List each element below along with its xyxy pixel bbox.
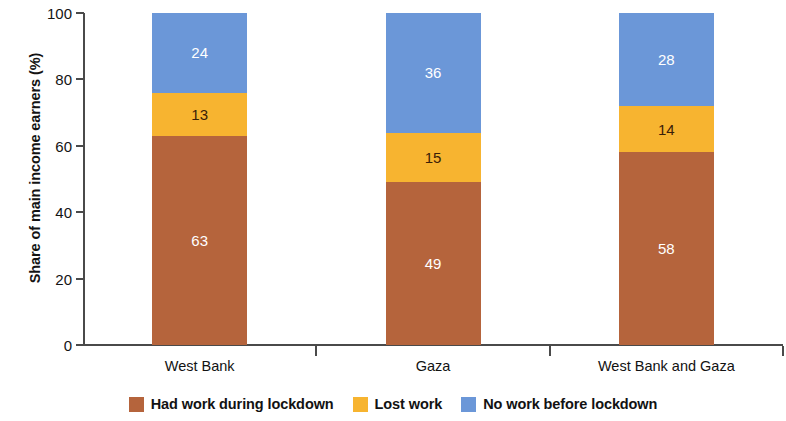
- bar-segment[interactable]: 63: [152, 136, 247, 345]
- y-axis-tick-label: 40: [12, 204, 72, 221]
- x-axis-end-tick: [782, 346, 784, 356]
- bar-segment-value-label: 13: [191, 107, 208, 122]
- bar-column[interactable]: 581428: [619, 13, 714, 345]
- bar-segment-value-label: 28: [658, 52, 675, 67]
- legend-item[interactable]: Had work during lockdown: [129, 396, 334, 412]
- bar-segment[interactable]: 49: [386, 182, 481, 345]
- legend-label: No work before lockdown: [483, 396, 657, 412]
- bar-segment[interactable]: 28: [619, 13, 714, 106]
- x-axis-category-label: Gaza: [313, 358, 553, 374]
- bar-segment-value-label: 49: [425, 256, 442, 271]
- y-axis-tick-label: 80: [12, 71, 72, 88]
- legend-label: Had work during lockdown: [151, 396, 334, 412]
- x-axis-separator-tick: [549, 346, 551, 356]
- x-axis-category-label: West Bank and Gaza: [546, 358, 786, 374]
- y-axis-tick-label: 60: [12, 137, 72, 154]
- legend-item[interactable]: No work before lockdown: [461, 396, 657, 412]
- bar-segment-value-label: 36: [425, 65, 442, 80]
- bar-segment-value-label: 14: [658, 122, 675, 137]
- bar-segment[interactable]: 58: [619, 152, 714, 345]
- bar-segment[interactable]: 13: [152, 93, 247, 136]
- y-axis-tick-label: 0: [12, 337, 72, 354]
- legend-swatch-icon: [129, 397, 144, 412]
- bar-segment-value-label: 15: [425, 150, 442, 165]
- bar-segment[interactable]: 24: [152, 13, 247, 93]
- y-axis-tick-label: 100: [12, 5, 72, 22]
- y-axis-tick-label: 20: [12, 270, 72, 287]
- bar-segment-value-label: 58: [658, 241, 675, 256]
- bar-segment-value-label: 63: [191, 233, 208, 248]
- chart-legend: Had work during lockdownLost workNo work…: [0, 396, 786, 412]
- bar-column[interactable]: 631324: [152, 13, 247, 345]
- bar-segment[interactable]: 36: [386, 13, 481, 133]
- plot-area: 631324491536581428: [83, 13, 783, 345]
- x-axis-category-label: West Bank: [80, 358, 320, 374]
- legend-swatch-icon: [461, 397, 476, 412]
- stacked-bar-chart: Share of main income earners (%) 0204060…: [0, 0, 786, 421]
- legend-swatch-icon: [353, 397, 368, 412]
- bar-segment[interactable]: 14: [619, 106, 714, 152]
- x-axis-separator-tick: [315, 346, 317, 356]
- bar-segment[interactable]: 15: [386, 133, 481, 183]
- legend-item[interactable]: Lost work: [353, 396, 443, 412]
- bar-column[interactable]: 491536: [386, 13, 481, 345]
- bar-segment-value-label: 24: [191, 45, 208, 60]
- legend-label: Lost work: [375, 396, 443, 412]
